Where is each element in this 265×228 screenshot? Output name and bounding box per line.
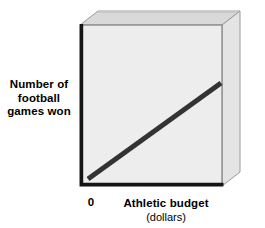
origin-tick-label: 0 [83,196,99,209]
block-top-face [80,11,240,25]
x-axis-label: Athletic budget [104,197,228,211]
plot-area-face [80,25,222,186]
x-axis-units-label: (dollars) [104,211,228,224]
y-axis-label-line-3: games won [2,105,76,119]
block-right-face [222,11,240,186]
y-axis-label-line-1: Number of [2,78,76,92]
block-top-face-highlight [98,11,240,13]
y-axis-label-line-2: football [2,92,76,106]
figure-canvas: Number of football games won 0 Athletic … [0,0,265,228]
y-axis-label: Number of football games won [2,78,76,119]
